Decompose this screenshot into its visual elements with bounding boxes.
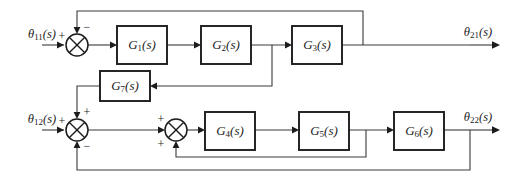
sum2-sign-top: + — [84, 105, 91, 119]
arrowhead-sum3-input — [158, 127, 165, 134]
arrowhead-G4-input — [198, 127, 205, 134]
arrowhead-G5-input — [292, 127, 299, 134]
arrowhead-G3-input — [285, 42, 292, 49]
sum1-sign-left: + — [59, 29, 66, 43]
block-diagram-canvas: G1(s) G2(s) G3(s) G7(s) G4(s) G5(s) — [0, 0, 518, 179]
block-G1-label: G1(s) — [128, 37, 156, 53]
arrowhead-sum1-feedback-input — [74, 27, 81, 34]
output-theta22-label: θ22(s) — [464, 110, 492, 125]
arrowhead-theta22-output — [492, 126, 500, 134]
summing-junction-1[interactable]: + − — [59, 20, 91, 56]
arrowhead-G1-input — [110, 42, 117, 49]
block-G5[interactable]: G5(s) — [299, 112, 349, 150]
block-G3-label: G3(s) — [303, 37, 331, 53]
arrowhead-G6-input — [387, 127, 394, 134]
arrowhead-sum2-bottom-input — [74, 141, 81, 148]
sum2-sign-bottom: − — [84, 139, 91, 153]
block-G4-label: G4(s) — [216, 123, 244, 139]
sum1-sign-top: − — [84, 20, 91, 34]
arrowhead-sum3-bottom-input — [173, 141, 180, 148]
block-G3[interactable]: G3(s) — [292, 26, 342, 64]
summing-junction-2[interactable]: + + − — [59, 105, 91, 153]
sum2-sign-left: + — [59, 114, 66, 128]
block-G2[interactable]: G2(s) — [201, 26, 251, 64]
input-theta12-label: θ12(s) — [28, 112, 56, 127]
arrowhead-sum2-top-input — [74, 112, 81, 119]
arrowhead-G2-input — [194, 42, 201, 49]
wire-group-top-row — [42, 11, 500, 49]
block-G2-label: G2(s) — [212, 37, 240, 53]
arrowhead-G7-input — [150, 83, 157, 90]
arrowhead-theta21-output — [492, 41, 500, 49]
block-G7[interactable]: G7(s) — [100, 71, 150, 101]
block-diagram-svg: G1(s) G2(s) G3(s) G7(s) G4(s) G5(s) — [0, 0, 518, 179]
block-G5-label: G5(s) — [310, 123, 338, 139]
block-G7-label: G7(s) — [111, 78, 139, 94]
output-theta21-label: θ21(s) — [464, 25, 492, 40]
block-G6[interactable]: G6(s) — [394, 112, 444, 150]
block-G1[interactable]: G1(s) — [117, 26, 167, 64]
block-G6-label: G6(s) — [405, 123, 433, 139]
input-theta11-label: θ11(s) — [28, 27, 56, 42]
block-G4[interactable]: G4(s) — [205, 112, 255, 150]
sum3-sign-left-top: + — [158, 112, 165, 126]
sum3-sign-left-bottom: + — [158, 137, 165, 151]
